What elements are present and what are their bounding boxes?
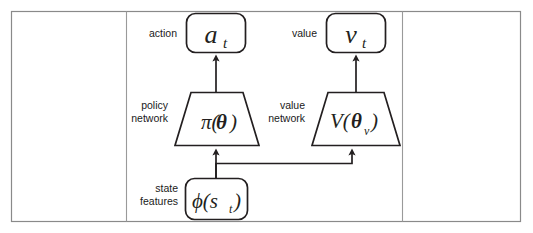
state-features-close-paren: ) xyxy=(233,189,241,213)
policy-network-param: θ xyxy=(216,110,227,134)
value-network-label-line1: value xyxy=(280,99,305,111)
value-output-text: v xyxy=(345,20,357,49)
state-features-text: ϕ(s xyxy=(192,189,218,213)
value-network-close-paren: ) xyxy=(370,109,378,133)
policy-network-close-paren: ) xyxy=(229,110,237,134)
value-network-text: V( xyxy=(330,109,352,133)
figure-canvas: action value policy network value networ… xyxy=(0,0,533,233)
action-output-text: a xyxy=(205,20,218,49)
figure-frame xyxy=(12,12,521,222)
architecture-diagram: action value policy network value networ… xyxy=(0,0,533,233)
policy-network-label-line2: network xyxy=(131,112,169,124)
value-network-label-line2: network xyxy=(268,112,306,124)
value-network-subscript: v xyxy=(364,124,370,138)
value-label: value xyxy=(292,27,317,39)
state-features-label-line1: state xyxy=(155,182,178,194)
action-label: action xyxy=(149,27,177,39)
state-features-label-line2: features xyxy=(140,195,178,207)
value-network-param: θ xyxy=(351,109,362,133)
policy-network-label-line1: policy xyxy=(141,99,169,111)
